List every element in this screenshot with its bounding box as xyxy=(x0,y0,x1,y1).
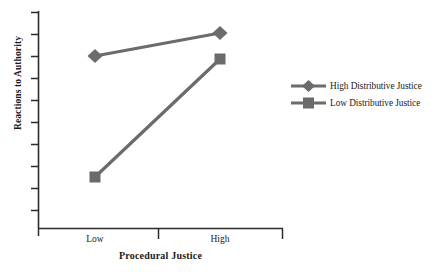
series-high-distributive-justice xyxy=(88,26,228,63)
interaction-plot-figure: Reactions to Authority Procedural Justic… xyxy=(0,0,438,272)
series-high-marker-high xyxy=(213,26,228,40)
legend-swatch-square xyxy=(291,96,326,110)
legend-label-low-distributive-justice: Low Distributive Justice xyxy=(330,98,420,108)
series-high-marker-low xyxy=(88,49,103,63)
legend-label-high-distributive-justice: High Distributive Justice xyxy=(330,81,422,91)
x-tick-label-high: High xyxy=(190,234,250,244)
series-low-line xyxy=(95,59,220,177)
y-axis-title: Reactions to Authority xyxy=(13,8,23,158)
x-axis-title: Procedural Justice xyxy=(38,250,283,261)
legend-swatch-diamond xyxy=(291,79,326,93)
series-high-line xyxy=(95,33,220,56)
series-low-marker-low xyxy=(90,172,101,183)
legend-entry-low-distributive-justice: Low Distributive Justice xyxy=(291,94,438,111)
x-tick-label-low: Low xyxy=(65,234,125,244)
chart-legend: High Distributive Justice Low Distributi… xyxy=(291,77,438,111)
series-low-distributive-justice xyxy=(90,54,226,183)
y-axis-ticks xyxy=(31,13,39,211)
plot-area xyxy=(0,0,438,272)
series-low-marker-high xyxy=(215,54,226,65)
legend-entry-high-distributive-justice: High Distributive Justice xyxy=(291,77,438,94)
